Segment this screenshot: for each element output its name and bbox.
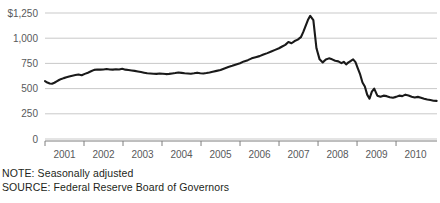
x-axis-tick-label: 2008: [326, 149, 349, 160]
x-axis-tick-label: 2001: [53, 149, 76, 160]
footnotes-block: NOTE: Seasonally adjusted SOURCE: Federa…: [2, 166, 438, 194]
x-axis-tick-label: 2007: [287, 149, 310, 160]
y-axis-labels-group: 02505007501,000$1,250: [7, 8, 38, 145]
x-axis-tick-label: 2009: [365, 149, 388, 160]
x-axis-tick-label: 2004: [170, 149, 193, 160]
x-axis-ticks-group: [45, 141, 396, 146]
x-axis-tick-label: 2002: [92, 149, 115, 160]
x-axis-tick-label: 2006: [248, 149, 271, 160]
note-line: NOTE: Seasonally adjusted: [2, 166, 438, 180]
x-axis-tick-label: 2005: [209, 149, 232, 160]
x-axis-tick-label: 2010: [404, 149, 427, 160]
y-axis-tick-label: 0: [32, 134, 38, 145]
y-axis-tick-label: 250: [21, 108, 38, 119]
x-axis-tick-label: 2003: [131, 149, 154, 160]
x-axis-labels-group: 2001200220032004200520062007200820092010: [53, 149, 427, 160]
y-axis-tick-label: 500: [21, 83, 38, 94]
source-line: SOURCE: Federal Reserve Board of Governo…: [2, 180, 438, 194]
chart-figure: 02505007501,000$1,250 200120022003200420…: [0, 0, 440, 203]
gridlines-group: [45, 13, 437, 139]
y-axis-tick-label: 1,000: [13, 33, 38, 44]
y-axis-tick-label: $1,250: [7, 8, 38, 19]
y-axis-tick-label: 750: [21, 58, 38, 69]
